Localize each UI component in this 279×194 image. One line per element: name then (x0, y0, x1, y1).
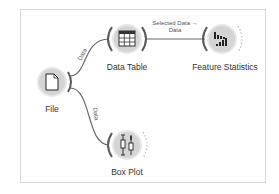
node-file[interactable] (38, 68, 71, 96)
link-label-line1: Selected Data → (152, 20, 197, 27)
node-box-plot[interactable] (108, 131, 147, 159)
node-feature-statistics[interactable] (203, 25, 242, 53)
link-label-line2: Data (152, 27, 197, 34)
node-label-file: File (45, 104, 59, 114)
node-data-table[interactable] (108, 25, 146, 53)
link-file-data-table[interactable] (70, 39, 109, 76)
node-label-box-plot: Box Plot (111, 167, 143, 177)
link-label-selected-data: Selected Data → Data (152, 20, 197, 34)
link-file-box-plot[interactable] (70, 88, 109, 145)
file-icon (46, 74, 58, 90)
node-label-data-table: Data Table (107, 62, 147, 72)
workflow-links: Data Data (0, 0, 279, 194)
node-label-feature-statistics: Feature Statistics (192, 62, 258, 72)
link-label-data-2: Data (92, 107, 100, 121)
link-label-data-1: Data (77, 47, 89, 62)
table-icon (119, 31, 135, 46)
